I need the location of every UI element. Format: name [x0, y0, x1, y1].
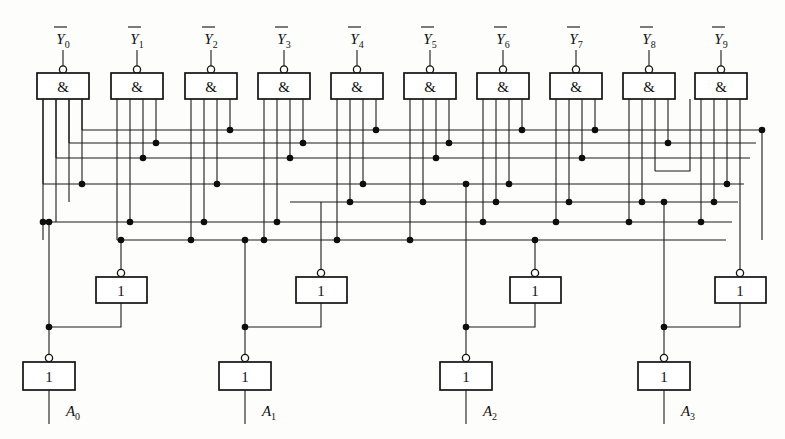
nand-gate-symbol-8: &	[643, 79, 655, 95]
output-label-Y6: Y6	[494, 27, 510, 66]
junction-dot-icon	[118, 237, 125, 244]
junction-dot-icon	[579, 155, 586, 162]
junction-dot-icon	[661, 199, 668, 206]
bubble-icon	[736, 269, 743, 276]
output-label-Y0: Y0	[54, 27, 70, 66]
output-label-Y2: Y2	[202, 27, 218, 66]
junction-dot-icon	[300, 140, 307, 147]
output-label-Y4: Y4	[348, 27, 364, 66]
bubble-icon	[462, 354, 469, 361]
junction-dot-icon	[214, 181, 221, 188]
input-inverters-group: 1 A0 1 A1 1 A2 1	[23, 184, 695, 424]
buffer-inverter-3[interactable]: 1	[664, 269, 766, 327]
junction-dot-icon	[201, 219, 208, 226]
input-inverter-A2[interactable]: 1 A2	[440, 184, 497, 424]
buffer-inverter-symbol-1: 1	[317, 283, 325, 299]
bubble-icon	[660, 354, 667, 361]
junction-dot-icon	[420, 199, 427, 206]
output-label-Y1: Y1	[128, 27, 144, 66]
nand-gates-group: & & & & & & &	[37, 66, 747, 99]
buffer-inverter-2[interactable]: 1	[466, 240, 561, 327]
input-label-A2: A2	[482, 403, 497, 422]
input-label-A3: A3	[680, 403, 695, 422]
junction-dot-icon	[519, 127, 526, 134]
junction-dot-icon	[373, 127, 380, 134]
junction-dot-icon	[480, 219, 487, 226]
input-label-A0: A0	[65, 403, 80, 422]
junction-dot-icon	[639, 199, 646, 206]
output-label-Y5: Y5	[421, 27, 437, 66]
buffer-inverter-0[interactable]: 1	[49, 240, 147, 327]
nand-gate-5[interactable]: &	[404, 66, 456, 99]
junction-dot-icon	[724, 181, 731, 188]
junction-dot-icon	[79, 181, 86, 188]
junction-dot-icon	[287, 155, 294, 162]
buffer-inverter-symbol-2: 1	[531, 283, 539, 299]
input-inverter-A0[interactable]: 1 A0	[23, 222, 80, 424]
input-inverter-symbol-A3: 1	[660, 369, 668, 385]
output-label-text-Y0: Y0	[56, 31, 69, 50]
nand-gate-symbol-1: &	[131, 79, 143, 95]
bubble-icon	[241, 354, 248, 361]
nand-gate-1[interactable]: &	[111, 66, 163, 99]
output-label-Y8: Y8	[640, 27, 656, 66]
buffer-inverter-symbol-0: 1	[117, 283, 125, 299]
junction-dot-icon	[759, 127, 766, 134]
circuit-svg: Y0 Y1 Y2 Y3 Y4 Y5 Y6	[0, 0, 785, 439]
input-inverter-A3[interactable]: 1 A3	[638, 202, 695, 424]
nand-gate-symbol-9: &	[715, 79, 727, 95]
nand-gate-3[interactable]: &	[258, 66, 310, 99]
output-label-text-Y4: Y4	[350, 31, 363, 50]
junction-dot-icon	[242, 237, 249, 244]
junction-dots-group	[40, 127, 766, 244]
bubble-icon	[59, 66, 66, 73]
nand-gate-8[interactable]: &	[623, 66, 675, 99]
gate-input-pins-group	[43, 99, 740, 273]
nand-gate-symbol-4: &	[351, 79, 363, 95]
output-label-text-Y8: Y8	[642, 31, 655, 50]
bubble-icon	[45, 354, 52, 361]
bubble-icon	[717, 66, 724, 73]
output-label-Y3: Y3	[275, 27, 291, 66]
output-label-Y7: Y7	[567, 27, 583, 66]
junction-dot-icon	[698, 219, 705, 226]
bus-routes-group	[43, 99, 762, 240]
bubble-icon	[117, 269, 124, 276]
bubble-icon	[531, 269, 538, 276]
input-inverter-symbol-A0: 1	[45, 369, 53, 385]
circuit-canvas: Y0 Y1 Y2 Y3 Y4 Y5 Y6	[0, 0, 785, 439]
nand-gate-6[interactable]: &	[477, 66, 529, 99]
output-label-text-Y6: Y6	[496, 31, 509, 50]
nand-gate-0[interactable]: &	[37, 66, 89, 99]
junction-dot-icon	[433, 155, 440, 162]
junction-dot-icon	[506, 181, 513, 188]
junction-dot-icon	[711, 199, 718, 206]
junction-dot-icon	[140, 155, 147, 162]
buffer-inverter-1[interactable]: 1	[245, 202, 347, 327]
buffer-inverters-group: 1 1 1 1	[49, 202, 766, 327]
nand-gate-2[interactable]: &	[185, 66, 237, 99]
junction-dot-icon	[665, 140, 672, 147]
junction-dot-icon	[407, 237, 414, 244]
bubble-icon	[280, 66, 287, 73]
buffer-inverter-symbol-3: 1	[736, 283, 744, 299]
nand-gate-9[interactable]: &	[695, 66, 747, 99]
junction-dot-icon	[553, 219, 560, 226]
nand-gate-symbol-0: &	[57, 79, 69, 95]
junction-dot-icon	[532, 237, 539, 244]
junction-dot-icon	[188, 237, 195, 244]
nand-gate-symbol-2: &	[205, 79, 217, 95]
junction-dot-icon	[227, 127, 234, 134]
junction-dot-icon	[334, 237, 341, 244]
nand-gate-symbol-3: &	[278, 79, 290, 95]
input-inverter-symbol-A1: 1	[241, 369, 249, 385]
nand-gate-7[interactable]: &	[550, 66, 602, 99]
nand-gate-4[interactable]: &	[331, 66, 383, 99]
junction-dot-icon	[661, 324, 668, 331]
bubble-icon	[133, 66, 140, 73]
junction-dot-icon	[446, 140, 453, 147]
junction-dot-icon	[463, 181, 470, 188]
junction-dot-icon	[592, 127, 599, 134]
input-inverter-A1[interactable]: 1 A1	[219, 240, 276, 424]
junction-dot-icon	[626, 219, 633, 226]
